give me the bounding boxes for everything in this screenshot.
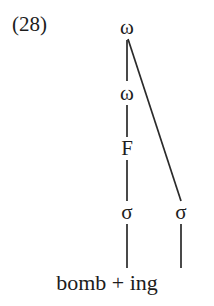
node-omega-root: ω xyxy=(120,17,134,38)
terminal-string: bomb + ing xyxy=(56,272,158,294)
node-sigma-left: σ xyxy=(121,202,132,223)
node-omega-inner: ω xyxy=(120,83,134,104)
tree-edges xyxy=(0,0,214,306)
node-foot: F xyxy=(121,138,133,159)
edge-omega-top-to-sigma-right xyxy=(128,39,181,201)
node-sigma-right: σ xyxy=(175,202,186,223)
example-number-label: (28) xyxy=(12,14,47,35)
prosodic-tree-figure: (28) ω ω F σ σ bomb + ing xyxy=(0,0,214,306)
